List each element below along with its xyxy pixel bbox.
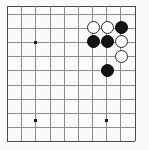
stone-white-1[interactable]: [87, 21, 100, 34]
grid-line-vertical-0: [7, 6, 8, 141]
stone-white-2[interactable]: [101, 21, 114, 34]
stone-black-1[interactable]: [115, 21, 128, 34]
star-point-bottom-right: [105, 119, 108, 122]
grid-line-horizontal-8: [7, 113, 135, 114]
grid-line-horizontal-1: [7, 14, 135, 15]
grid-line-horizontal-0: [7, 6, 135, 7]
star-point-bottom-left: [34, 119, 37, 122]
grid-line-vertical-1: [21, 6, 22, 141]
stone-white-4[interactable]: [115, 50, 128, 63]
stone-white-3[interactable]: [115, 35, 128, 48]
grid-line-vertical-3: [50, 6, 51, 141]
go-board-diagram: [0, 0, 149, 150]
grid-line-horizontal-10: [7, 141, 135, 142]
grid-line-horizontal-7: [7, 99, 135, 100]
grid-line-vertical-5: [78, 6, 79, 141]
stone-black-2[interactable]: [87, 35, 100, 48]
stone-black-3[interactable]: [101, 35, 114, 48]
stone-black-4[interactable]: [101, 64, 114, 77]
grid-line-horizontal-5: [7, 70, 135, 71]
grid-line-vertical-9: [135, 6, 136, 141]
grid-line-horizontal-6: [7, 85, 135, 86]
grid-line-horizontal-9: [7, 127, 135, 128]
grid-line-vertical-4: [64, 6, 65, 141]
star-point-left: [34, 41, 37, 44]
